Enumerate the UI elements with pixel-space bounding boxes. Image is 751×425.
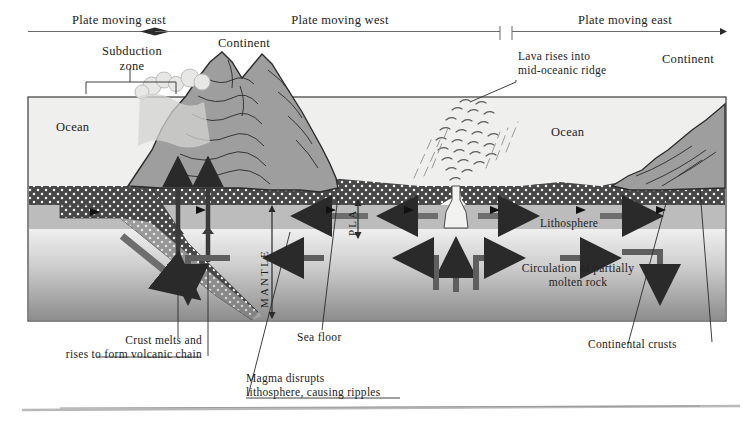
page-bottom-rule — [22, 406, 740, 410]
ocean-left-label: Ocean — [56, 120, 89, 135]
lithosphere-label: Lithosphere — [540, 217, 598, 231]
mantle-label: MANTLE — [258, 216, 270, 308]
ocean-right-label: Ocean — [551, 125, 584, 140]
magma-disrupts-label: Magma disrupts lithosphere, causing ripp… — [246, 372, 381, 399]
subduction-zone-label: Subduction zone — [72, 44, 192, 74]
ocean-water — [29, 98, 725, 186]
crust-melts-label: Crust melts and rises to form volcanic c… — [24, 334, 202, 361]
continental-crusts-label: Continental crusts — [588, 338, 677, 352]
continent-left-label: Continent — [184, 36, 304, 51]
plate-label: PLA — [346, 204, 358, 236]
plate-moving-east-left-label: Plate moving east — [44, 13, 194, 28]
plate-moving-west-label: Plate moving west — [250, 13, 430, 28]
sea-floor-label: Sea floor — [297, 331, 342, 345]
circulation-molten-rock-label: Circulation of partially molten rock — [486, 262, 670, 289]
figure-canvas: Plate moving east Plate moving west Plat… — [0, 0, 751, 425]
continent-right-label: Continent — [636, 52, 740, 67]
lava-rises-ridge-label: Lava rises into mid-oceanic ridge — [518, 50, 606, 77]
top-scale-rules — [28, 26, 726, 40]
plate-moving-east-right-label: Plate moving east — [540, 13, 710, 28]
